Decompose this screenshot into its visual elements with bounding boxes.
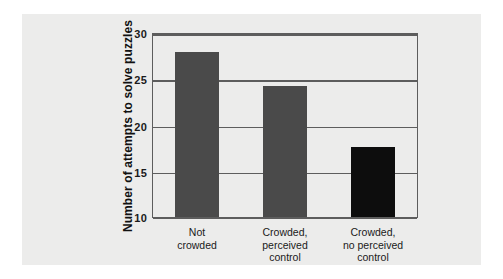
bar-crowded-perceived-control[interactable]	[263, 86, 307, 217]
y-tick-label-30: 30	[134, 28, 147, 40]
x-tick-label-2: Crowded, no perceived control	[318, 226, 428, 264]
y-axis-title-text: Number of attempts to solve puzzles	[121, 19, 135, 231]
y-tick-label-10: 10	[134, 212, 147, 224]
y-tick-label-15: 15	[134, 167, 147, 179]
plot-area: 30 25 20 15 10 Not crowded Crowded, perc…	[152, 33, 418, 218]
y-tick-label-20: 20	[134, 121, 147, 133]
gridline-10: 10	[153, 218, 417, 220]
bar-crowded-no-perceived-control[interactable]	[351, 147, 395, 217]
chart-figure: Number of attempts to solve puzzles 30 2…	[22, 14, 481, 265]
y-tick-label-25: 25	[134, 74, 147, 86]
bar-series	[153, 34, 417, 217]
bar-not-crowded[interactable]	[175, 52, 219, 217]
